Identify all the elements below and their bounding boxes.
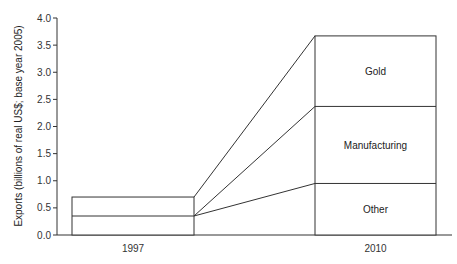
- y-tick-label: 2.0: [37, 121, 51, 132]
- connector-line: [194, 36, 315, 197]
- x-axis-labels: 19972010: [122, 243, 387, 254]
- bars: OtherManufacturingGold: [72, 36, 436, 235]
- y-tick-label: 1.0: [37, 175, 51, 186]
- y-tick-label: 4.0: [37, 13, 51, 24]
- y-tick-label: 1.5: [37, 148, 51, 159]
- y-tick-label: 2.5: [37, 94, 51, 105]
- segment-label-other: Other: [363, 204, 389, 215]
- y-tick-label: 0.0: [37, 230, 51, 241]
- y-tick-label: 3.0: [37, 67, 51, 78]
- y-tick-label: 0.5: [37, 202, 51, 213]
- y-axis-label: Exports (billions of real US$; base year…: [13, 25, 24, 226]
- x-tick-label: 2010: [364, 243, 387, 254]
- stacked-bar-chart: Exports (billions of real US$; base year…: [0, 0, 457, 264]
- y-tick-label: 3.5: [37, 40, 51, 51]
- x-tick-label: 1997: [122, 243, 145, 254]
- segment-label-gold: Gold: [365, 66, 386, 77]
- segment-label-manufacturing: Manufacturing: [344, 140, 407, 151]
